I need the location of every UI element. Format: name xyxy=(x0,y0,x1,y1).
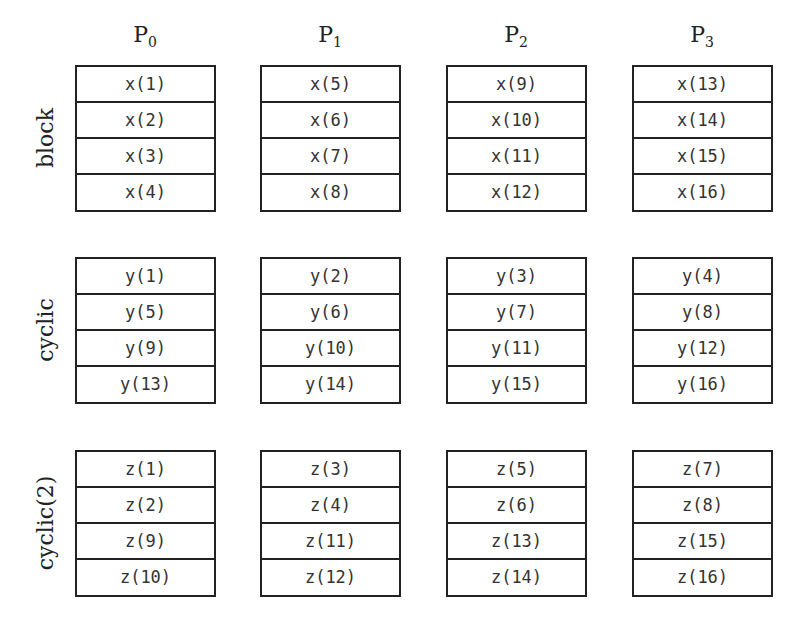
array-element-cell: z(4) xyxy=(262,488,399,524)
processor-header-p0: P0 xyxy=(75,22,215,50)
array-element-cell: z(3) xyxy=(262,452,399,488)
array-element-cell: z(14) xyxy=(448,560,585,595)
array-element-cell: x(14) xyxy=(634,103,771,139)
array-element-cell: y(4) xyxy=(634,259,771,295)
processor-memory-box: y(2)y(6)y(10)y(14) xyxy=(260,257,401,404)
array-element-cell: y(3) xyxy=(448,259,585,295)
array-element-cell: y(12) xyxy=(634,331,771,367)
processor-subscript: 2 xyxy=(519,34,528,50)
array-element-cell: x(6) xyxy=(262,103,399,139)
array-element-cell: y(8) xyxy=(634,295,771,331)
array-element-cell: y(5) xyxy=(77,295,214,331)
array-element-cell: y(15) xyxy=(448,367,585,402)
array-element-cell: x(7) xyxy=(262,139,399,175)
processor-memory-box: z(3)z(4)z(11)z(12) xyxy=(260,450,401,597)
processor-memory-box: x(13)x(14)x(15)x(16) xyxy=(632,65,773,212)
processor-memory-box: y(4)y(8)y(12)y(16) xyxy=(632,257,773,404)
array-element-cell: z(12) xyxy=(262,560,399,595)
array-element-cell: z(16) xyxy=(634,560,771,595)
array-element-cell: z(1) xyxy=(77,452,214,488)
array-element-cell: z(15) xyxy=(634,524,771,560)
array-element-cell: x(16) xyxy=(634,175,771,210)
array-element-cell: y(13) xyxy=(77,367,214,402)
array-element-cell: x(4) xyxy=(77,175,214,210)
distribution-label-block: block xyxy=(33,65,59,211)
array-element-cell: y(9) xyxy=(77,331,214,367)
array-element-cell: z(6) xyxy=(448,488,585,524)
processor-label: P xyxy=(690,22,705,47)
array-element-cell: x(15) xyxy=(634,139,771,175)
array-element-cell: y(7) xyxy=(448,295,585,331)
array-element-cell: y(14) xyxy=(262,367,399,402)
processor-label: P xyxy=(133,22,148,47)
array-element-cell: x(10) xyxy=(448,103,585,139)
array-element-cell: x(11) xyxy=(448,139,585,175)
processor-subscript: 1 xyxy=(333,34,342,50)
array-element-cell: x(1) xyxy=(77,67,214,103)
array-element-cell: x(12) xyxy=(448,175,585,210)
array-element-cell: y(11) xyxy=(448,331,585,367)
array-element-cell: z(5) xyxy=(448,452,585,488)
array-element-cell: y(16) xyxy=(634,367,771,402)
processor-label: P xyxy=(318,22,333,47)
array-element-cell: z(10) xyxy=(77,560,214,595)
array-element-cell: x(8) xyxy=(262,175,399,210)
array-element-cell: y(2) xyxy=(262,259,399,295)
array-element-cell: x(9) xyxy=(448,67,585,103)
processor-memory-box: x(1)x(2)x(3)x(4) xyxy=(75,65,216,212)
processor-subscript: 3 xyxy=(705,34,714,50)
array-element-cell: z(11) xyxy=(262,524,399,560)
processor-memory-box: y(3)y(7)y(11)y(15) xyxy=(446,257,587,404)
array-element-cell: y(6) xyxy=(262,295,399,331)
processor-memory-box: x(5)x(6)x(7)x(8) xyxy=(260,65,401,212)
array-element-cell: z(13) xyxy=(448,524,585,560)
processor-memory-box: z(7)z(8)z(15)z(16) xyxy=(632,450,773,597)
processor-subscript: 0 xyxy=(148,34,157,50)
array-element-cell: z(2) xyxy=(77,488,214,524)
processor-memory-box: z(1)z(2)z(9)z(10) xyxy=(75,450,216,597)
array-element-cell: x(2) xyxy=(77,103,214,139)
processor-label: P xyxy=(504,22,519,47)
array-element-cell: y(1) xyxy=(77,259,214,295)
processor-memory-box: y(1)y(5)y(9)y(13) xyxy=(75,257,216,404)
array-element-cell: x(5) xyxy=(262,67,399,103)
array-element-cell: z(7) xyxy=(634,452,771,488)
processor-header-p3: P3 xyxy=(632,22,772,50)
processor-memory-box: x(9)x(10)x(11)x(12) xyxy=(446,65,587,212)
array-element-cell: x(13) xyxy=(634,67,771,103)
distribution-label-cyclic: cyclic xyxy=(33,257,59,403)
processor-header-p1: P1 xyxy=(260,22,400,50)
processor-header-p2: P2 xyxy=(446,22,586,50)
processor-memory-box: z(5)z(6)z(13)z(14) xyxy=(446,450,587,597)
distribution-label-cyclic2: cyclic(2) xyxy=(33,450,59,596)
array-element-cell: y(10) xyxy=(262,331,399,367)
array-element-cell: x(3) xyxy=(77,139,214,175)
array-element-cell: z(9) xyxy=(77,524,214,560)
array-element-cell: z(8) xyxy=(634,488,771,524)
